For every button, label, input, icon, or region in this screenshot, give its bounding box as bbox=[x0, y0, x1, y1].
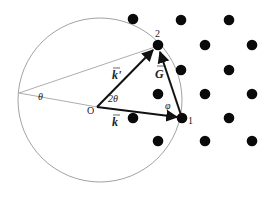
k-label: k bbox=[112, 115, 120, 129]
lattice-point bbox=[200, 40, 211, 51]
point-1-label: 1 bbox=[188, 115, 193, 126]
vector-k-prime bbox=[97, 50, 153, 107]
lattice-point bbox=[153, 40, 164, 51]
two-theta-label: 2θ bbox=[108, 93, 118, 104]
phi-label: φ bbox=[165, 100, 171, 111]
svg-text:k': k' bbox=[112, 68, 122, 82]
lattice-point bbox=[176, 15, 187, 26]
theta-label: θ bbox=[38, 91, 43, 102]
lattice-point bbox=[224, 15, 235, 26]
lattice-point bbox=[153, 89, 164, 100]
lattice-point bbox=[153, 136, 164, 147]
ewald-diagram: θ 2θ φ O 1 2 k' k G bbox=[0, 0, 273, 207]
lattice-point bbox=[247, 40, 258, 51]
lattice-point bbox=[224, 113, 235, 124]
lattice-point bbox=[224, 65, 235, 76]
lattice-point bbox=[128, 14, 139, 25]
lattice-point bbox=[176, 65, 187, 76]
origin-label: O bbox=[87, 105, 94, 116]
lattice-point bbox=[128, 113, 139, 124]
lattice-point bbox=[200, 136, 211, 147]
lattice-point bbox=[247, 136, 258, 147]
svg-text:k: k bbox=[112, 115, 118, 129]
point-2-label: 2 bbox=[155, 28, 160, 39]
lattice-point bbox=[177, 113, 188, 124]
k-prime-label: k' bbox=[112, 68, 122, 82]
lattice-point bbox=[200, 89, 211, 100]
svg-text:G: G bbox=[155, 67, 164, 81]
guide-line-to-origin bbox=[19, 93, 97, 107]
G-label: G bbox=[155, 66, 164, 81]
lattice-point bbox=[247, 89, 258, 100]
reciprocal-lattice bbox=[128, 14, 258, 147]
